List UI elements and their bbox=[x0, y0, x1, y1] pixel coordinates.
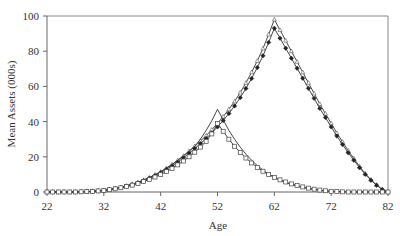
series-1-point bbox=[261, 46, 265, 50]
series-4-point bbox=[56, 190, 60, 194]
series-4-point bbox=[233, 144, 237, 148]
series-4-point bbox=[73, 190, 77, 194]
series-1-point bbox=[295, 60, 299, 64]
y-tick-label: 100 bbox=[23, 10, 40, 22]
series-4-point bbox=[102, 188, 106, 192]
series-4 bbox=[45, 121, 390, 194]
series-1-point bbox=[289, 49, 293, 53]
series-4-point bbox=[79, 190, 83, 194]
series-4-point bbox=[272, 175, 276, 179]
series-4-point bbox=[363, 190, 367, 194]
series-4-point bbox=[341, 190, 345, 194]
series-2-point bbox=[244, 86, 248, 90]
series-4-point bbox=[318, 188, 322, 192]
series-1-point bbox=[255, 59, 259, 63]
series-4-point bbox=[96, 189, 100, 193]
axes: 02040608010022324252627282 bbox=[23, 10, 394, 212]
series-4-point bbox=[62, 190, 66, 194]
series-1-point bbox=[301, 70, 305, 74]
series-4-point bbox=[85, 190, 89, 194]
x-tick-label: 42 bbox=[155, 200, 166, 212]
series-2-point bbox=[289, 56, 293, 60]
series-4-point bbox=[335, 190, 339, 194]
series-4-point bbox=[216, 121, 220, 125]
series-4-point bbox=[375, 190, 379, 194]
series-4-point bbox=[113, 187, 117, 191]
series-1-point bbox=[250, 70, 254, 74]
x-tick-label: 32 bbox=[98, 200, 109, 212]
series-4-point bbox=[142, 180, 146, 184]
series-4-point bbox=[153, 175, 157, 179]
series-4-point bbox=[244, 156, 248, 160]
series-1-point bbox=[278, 28, 282, 32]
series-4-point bbox=[312, 187, 316, 191]
series-4-point bbox=[187, 155, 191, 159]
series-4-point bbox=[352, 190, 356, 194]
series-4-point bbox=[210, 132, 214, 136]
series-4-point bbox=[68, 190, 72, 194]
series-4-point bbox=[221, 129, 225, 133]
series-4-point bbox=[90, 189, 94, 193]
series-1 bbox=[45, 17, 390, 193]
series-2-point bbox=[306, 86, 310, 90]
series-4-point bbox=[284, 180, 288, 184]
x-tick-label: 62 bbox=[269, 200, 280, 212]
series-4-point bbox=[238, 150, 242, 154]
series-1-point bbox=[267, 32, 271, 36]
y-tick-label: 60 bbox=[28, 80, 40, 92]
series-1-point bbox=[306, 81, 310, 85]
series-2-point bbox=[301, 76, 305, 80]
series-4-point bbox=[164, 170, 168, 174]
series-4-point bbox=[261, 169, 265, 173]
series-4-point bbox=[159, 172, 163, 176]
series-4-point bbox=[227, 137, 231, 141]
y-tick-label: 80 bbox=[28, 45, 40, 57]
series-4-point bbox=[323, 189, 327, 193]
series-4-point bbox=[176, 163, 180, 167]
series-2-point bbox=[278, 36, 282, 40]
chart: 02040608010022324252627282 Age Mean Asse… bbox=[0, 0, 400, 236]
series-4-point bbox=[51, 190, 55, 194]
series-4-point bbox=[193, 150, 197, 154]
series-4-point bbox=[346, 190, 350, 194]
series-1-point bbox=[244, 81, 248, 85]
series-4-point bbox=[45, 190, 49, 194]
series-4-point bbox=[250, 161, 254, 165]
series-1-point bbox=[284, 38, 288, 42]
series-2-point bbox=[266, 40, 270, 44]
series-4-point bbox=[267, 173, 271, 177]
series-1-point bbox=[318, 102, 322, 106]
series-4-point bbox=[386, 190, 390, 194]
series-4-point bbox=[170, 166, 174, 170]
y-axis-title: Mean Assets (000s) bbox=[5, 60, 18, 147]
series-4-point bbox=[255, 165, 259, 169]
series-2-point bbox=[284, 46, 288, 50]
y-tick-label: 0 bbox=[34, 186, 40, 198]
x-tick-label: 52 bbox=[212, 200, 223, 212]
x-tick-label: 72 bbox=[326, 200, 337, 212]
series-4-point bbox=[147, 178, 151, 182]
series-4-point bbox=[204, 139, 208, 143]
series-4-point bbox=[136, 182, 140, 186]
x-tick-label: 22 bbox=[42, 200, 53, 212]
series-4-point bbox=[289, 182, 293, 186]
series-4-point bbox=[301, 185, 305, 189]
series-layer bbox=[45, 17, 390, 194]
series-4-point bbox=[358, 190, 362, 194]
y-tick-label: 20 bbox=[28, 151, 40, 163]
y-tick-label: 40 bbox=[28, 116, 40, 128]
series-2-point bbox=[249, 76, 253, 80]
series-1-line bbox=[47, 20, 388, 192]
series-1-point bbox=[312, 91, 316, 95]
series-4-point bbox=[130, 183, 134, 187]
series-4-point bbox=[125, 185, 129, 189]
series-2-point bbox=[272, 26, 276, 30]
series-4-point bbox=[369, 190, 373, 194]
series-1-point bbox=[272, 17, 276, 21]
series-4-point bbox=[198, 145, 202, 149]
series-4-point bbox=[306, 186, 310, 190]
series-2-point bbox=[255, 65, 259, 69]
series-4-point bbox=[181, 159, 185, 163]
series-4-point bbox=[295, 183, 299, 187]
series-2-point bbox=[295, 66, 299, 70]
